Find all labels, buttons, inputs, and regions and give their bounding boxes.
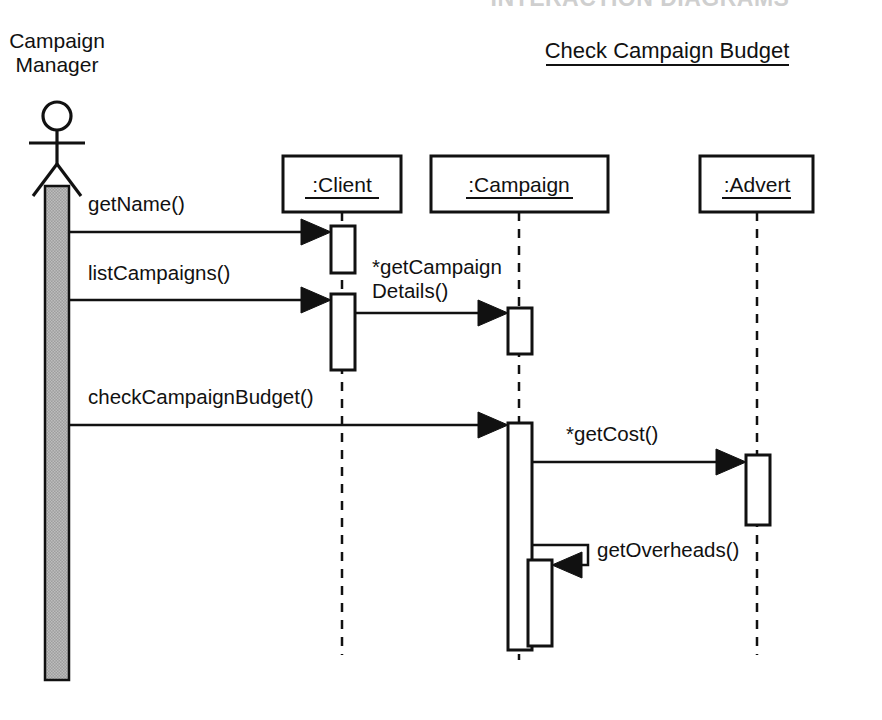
message-label-getcampaigndetails-line2: Details() xyxy=(372,279,448,302)
sequence-diagram-root: INTERACTION DIAGRAMS Check Campaign Budg… xyxy=(0,0,882,720)
message-label-getoverheads: getOverheads() xyxy=(597,538,739,561)
message-getcampaigndetails[interactable]: *getCampaign Details() xyxy=(355,255,508,326)
message-checkcampaignbudget[interactable]: checkCampaignBudget() xyxy=(69,385,508,438)
diagram-title: Check Campaign Budget xyxy=(545,38,790,63)
activation-advert-1 xyxy=(746,455,770,525)
activation-client-2 xyxy=(331,294,355,370)
message-label-getcampaigndetails-line1: *getCampaign xyxy=(372,255,502,278)
page-header-title-partial: INTERACTION DIAGRAMS xyxy=(491,0,790,11)
actor-label-line2: Manager xyxy=(16,53,99,76)
message-getcost[interactable]: *getCost() xyxy=(532,422,746,475)
sequence-diagram-canvas: INTERACTION DIAGRAMS Check Campaign Budg… xyxy=(0,0,882,720)
message-label-getcost: *getCost() xyxy=(566,422,658,445)
message-label-checkcampaignbudget: checkCampaignBudget() xyxy=(88,385,314,408)
activation-campaign-nested-self xyxy=(528,560,552,646)
object-label-advert: :Advert xyxy=(724,173,791,196)
actor-activation-bar xyxy=(45,186,69,680)
message-getoverheads-self-call[interactable]: getOverheads() xyxy=(532,538,739,578)
actor-label-line1: Campaign xyxy=(9,29,105,52)
message-label-getname: getName() xyxy=(88,192,185,215)
object-label-client: :Client xyxy=(312,173,372,196)
message-label-listcampaigns: listCampaigns() xyxy=(88,261,230,284)
actor-stick-figure-icon xyxy=(29,102,85,196)
activation-campaign-1 xyxy=(508,308,532,354)
activation-client-1 xyxy=(331,226,355,273)
message-listcampaigns[interactable]: listCampaigns() xyxy=(69,261,331,313)
object-label-campaign: :Campaign xyxy=(468,173,570,196)
